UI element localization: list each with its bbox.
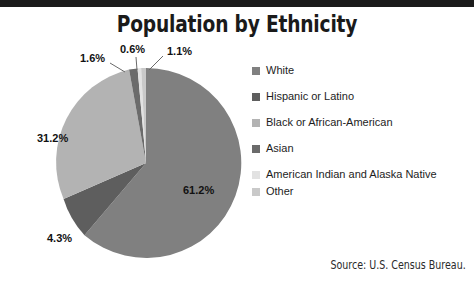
chart-legend: White Hispanic or Latino Black or Africa… [252, 64, 468, 211]
legend-item-black-or-african-american[interactable]: Black or African-American [252, 116, 468, 129]
legend-label-american-indian-and-alaska-native: American Indian and Alaska Native [266, 168, 437, 181]
legend-swatch-other [252, 188, 260, 196]
pie-label-white: 61.2% [183, 184, 214, 196]
legend-swatch-american-indian-and-alaska-native [252, 171, 260, 179]
legend-item-white[interactable]: White [252, 64, 468, 77]
legend-item-american-indian-and-alaska-native[interactable]: American Indian and Alaska Native [252, 168, 468, 181]
pie-label-asian: 1.6% [80, 52, 105, 64]
legend-label-other: Other [266, 185, 294, 198]
pie-label-hispanic-or-latino: 4.3% [47, 232, 72, 244]
legend-label-white: White [266, 64, 294, 77]
legend-label-black-or-african-american: Black or African-American [266, 116, 393, 129]
legend-label-hispanic-or-latino: Hispanic or Latino [266, 90, 354, 103]
legend-swatch-asian [252, 145, 260, 153]
legend-item-asian[interactable]: Asian [252, 142, 468, 155]
legend-item-hispanic-or-latino[interactable]: Hispanic or Latino [252, 90, 468, 103]
pie-label-black-or-african-american: 31.2% [37, 132, 68, 144]
legend-label-asian: Asian [266, 142, 294, 155]
legend-swatch-black-or-african-american [252, 119, 260, 127]
pie-label-other: 1.1% [167, 45, 192, 57]
leader-line-other [149, 56, 163, 70]
legend-swatch-white [252, 67, 260, 75]
source-note: Source: U.S. Census Bureau. [331, 258, 466, 272]
legend-swatch-hispanic-or-latino [252, 93, 260, 101]
leader-line-asian [110, 63, 125, 72]
pie-slices [56, 68, 241, 258]
pie-label-american-indian: 0.6% [120, 43, 145, 55]
leader-line-american-indian [136, 57, 137, 70]
legend-item-other[interactable]: Other [252, 185, 468, 198]
